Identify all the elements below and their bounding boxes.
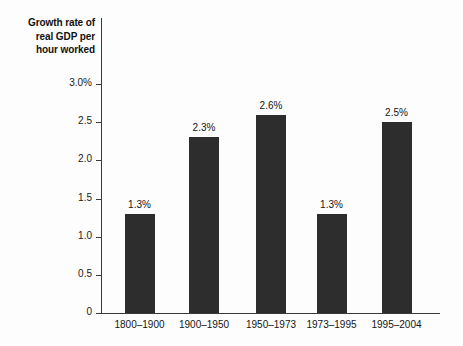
y-axis-tick [96,122,102,123]
y-axis-line [101,18,102,314]
y-axis-tick-label-text: 2.0 [78,153,92,164]
bar[interactable] [125,214,155,313]
bar-value-label: 2.5% [357,107,437,118]
bar-value-label: 2.6% [231,100,311,111]
x-axis-category-label: 1995–2004 [352,319,442,330]
y-axis-title-line-1: Growth rate of [0,16,95,30]
y-axis-title-line-2: real GDP per [0,30,95,44]
bar-value-label: 2.3% [164,122,244,133]
y-axis-title-line-3: hour worked [0,43,95,57]
bar[interactable] [189,137,219,313]
bar[interactable] [317,214,347,313]
y-axis-tick-label-text: 2.5 [78,115,92,126]
y-axis-tick [96,275,102,276]
bar[interactable] [256,115,286,313]
y-axis-tick-label-text: 1.0 [78,230,92,241]
y-axis-tick-label-text: 3.0% [69,77,92,88]
y-axis-title: Growth rate of real GDP per hour worked [0,16,95,57]
bar-value-label: 1.3% [100,199,180,210]
y-axis-tick-label-text: 0 [86,306,92,317]
x-axis-line [101,313,440,314]
y-axis-tick-label-text: 0.5 [78,268,92,279]
y-axis-tick [96,160,102,161]
y-axis-tick [96,237,102,238]
bar[interactable] [382,122,412,313]
y-axis-tick [96,313,102,314]
chart-canvas: Growth rate of real GDP per hour worked … [0,0,463,346]
bar-value-label: 1.3% [292,199,372,210]
y-axis-tick-label-text: 1.5 [78,192,92,203]
y-axis-tick [96,84,102,85]
